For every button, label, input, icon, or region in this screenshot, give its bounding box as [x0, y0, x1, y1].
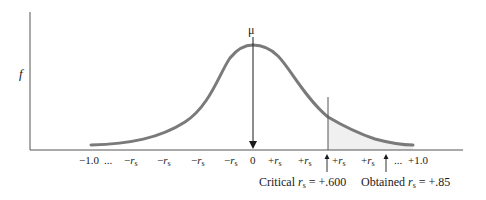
tick-label-pos-rs: +rs: [332, 155, 346, 168]
mean-arrowhead: [249, 141, 257, 149]
tick-label-pos-rs: +rs: [361, 155, 375, 168]
mean-label: μ: [248, 24, 254, 36]
tick-label-pos-rs: +rs: [298, 155, 312, 168]
tick-label-neg-rs: −rs: [157, 155, 171, 168]
sampling-distribution-chart: [0, 0, 486, 200]
tick-ellipsis-left: ...: [104, 155, 112, 166]
obtained-arrowhead: [384, 154, 389, 159]
tick-label-zero: 0: [250, 155, 256, 166]
tick-label-min: −1.0: [79, 155, 99, 166]
distribution-curve: [91, 45, 413, 145]
tick-label-max: +1.0: [408, 155, 428, 166]
critical-value-annotation: Critical rs = +.600: [259, 176, 346, 190]
y-axis-label: f: [19, 67, 23, 80]
tick-label-pos-rs: +rs: [268, 155, 282, 168]
tick-ellipsis-right: ...: [394, 155, 402, 166]
critical-arrowhead: [325, 154, 330, 159]
obtained-value-annotation: Obtained rs = +.85: [361, 176, 450, 190]
tick-label-neg-rs: −rs: [224, 155, 238, 168]
tick-label-neg-rs: −rs: [124, 155, 138, 168]
tick-label-neg-rs: −rs: [191, 155, 205, 168]
